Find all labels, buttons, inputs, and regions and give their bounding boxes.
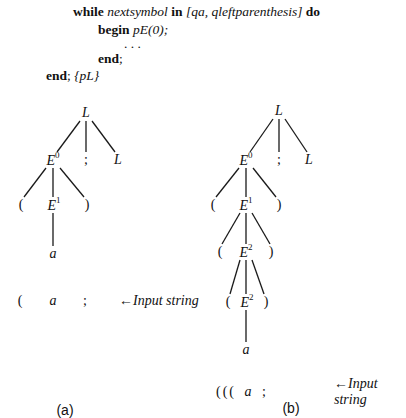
node-superscript: 1 xyxy=(56,195,61,205)
input-b-token-3: ; xyxy=(262,384,266,400)
node-label: E xyxy=(239,153,248,168)
tree-b-node-E1: E1 xyxy=(239,196,252,214)
tree-b-node-rparen-2: ) xyxy=(269,244,274,260)
node-label: E xyxy=(239,245,248,260)
tree-b-node-semicolon: ; xyxy=(277,152,281,168)
node-label: E xyxy=(239,198,248,213)
tree-a-node-E0: E0 xyxy=(46,151,59,169)
tree-b-node-L-root: L xyxy=(275,103,283,119)
node-label: E xyxy=(47,198,56,213)
node-label: E xyxy=(46,153,55,168)
tree-b-node-a: a xyxy=(243,342,250,358)
input-b-token-2: a xyxy=(245,384,252,400)
tree-b-node-rparen-1: ) xyxy=(277,197,282,213)
tree-a-node-L: L xyxy=(114,152,122,168)
input-a-label: ←Input string xyxy=(119,293,199,309)
tree-b-node-lparen-2: ( xyxy=(218,244,223,260)
tree-b-node-lparen-1: ( xyxy=(211,197,216,213)
caption-a: (a) xyxy=(56,402,73,418)
tree-a-node-E1: E1 xyxy=(47,196,60,214)
input-a-token-3: ; xyxy=(83,293,87,309)
node-superscript: 0 xyxy=(248,150,253,160)
tree-b-node-E2-lower: E2 xyxy=(240,293,253,311)
input-a-token-2: a xyxy=(50,293,57,309)
node-superscript: 0 xyxy=(55,150,60,160)
caption-b: (b) xyxy=(282,400,299,416)
node-superscript: 2 xyxy=(249,292,254,302)
input-a-token-1: ( xyxy=(18,293,23,309)
input-b-token-1: ((( xyxy=(216,384,236,400)
node-label: E xyxy=(240,295,249,310)
tree-a-node-L-root: L xyxy=(82,105,90,121)
tree-b-node-E0: E0 xyxy=(239,151,252,169)
tree-a-node-rparen: ) xyxy=(85,197,90,213)
tree-a-node-lparen: ( xyxy=(19,197,24,213)
input-b-label: ←Input string xyxy=(334,376,406,408)
tree-a-node-a: a xyxy=(50,246,57,262)
node-superscript: 1 xyxy=(248,195,253,205)
node-superscript: 2 xyxy=(248,242,253,252)
tree-b-node-lparen-3: ( xyxy=(226,294,231,310)
tree-b-node-E2-upper: E2 xyxy=(239,243,252,261)
tree-b-node-L: L xyxy=(305,152,313,168)
tree-b-node-rparen-3: ) xyxy=(264,294,269,310)
tree-a-node-semicolon: ; xyxy=(84,152,88,168)
